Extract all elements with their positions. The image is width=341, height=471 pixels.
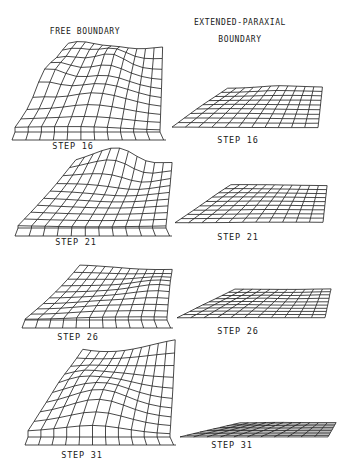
surface-panel-4 xyxy=(22,265,173,328)
wireframe-mesh xyxy=(22,265,173,328)
surface-panel-1 xyxy=(172,86,322,128)
surface-panel-7 xyxy=(180,422,336,437)
step-label-free-31: STEP 31 xyxy=(22,450,142,460)
surface-panel-6 xyxy=(25,340,176,445)
surface-panel-5 xyxy=(177,289,331,318)
step-label-free-26: STEP 26 xyxy=(18,332,138,342)
surface-panel-0 xyxy=(12,42,166,140)
step-label-paraxial-21: STEP 21 xyxy=(178,232,298,242)
step-label-free-21: STEP 21 xyxy=(16,237,136,247)
step-label-paraxial-26: STEP 26 xyxy=(178,326,298,336)
wireframe-mesh xyxy=(12,42,166,140)
wireframe-mesh xyxy=(172,86,322,128)
wireframe-mesh xyxy=(15,148,172,236)
wireframe-mesh xyxy=(25,340,176,445)
surface-panel-3 xyxy=(175,185,327,223)
step-label-paraxial-16: STEP 16 xyxy=(178,135,298,145)
wireframe-mesh xyxy=(177,289,331,318)
step-label-paraxial-31: STEP 31 xyxy=(172,440,292,450)
surface-panel-2 xyxy=(15,148,172,236)
wireframe-mesh xyxy=(180,422,336,437)
wireframe-mesh xyxy=(175,185,327,223)
step-label-free-16: STEP 16 xyxy=(13,141,133,151)
